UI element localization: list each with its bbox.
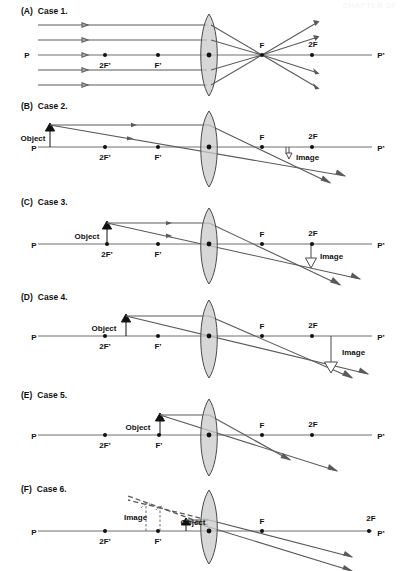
diverging-ray (262, 22, 318, 55)
image-arrow-head (286, 153, 292, 159)
label-P-left: P (31, 528, 37, 537)
label-P-right: P’ (377, 241, 385, 250)
point-2F (310, 433, 314, 437)
label-image: Image (124, 513, 148, 522)
label-2F-prime: 2F’ (99, 537, 111, 546)
converging-lens (201, 399, 218, 476)
lens-center-point (207, 529, 212, 534)
label-2F: 2F (308, 229, 317, 238)
ray-diagram-case-1: P 2F’ F’ F 2F P’ (0, 6, 402, 98)
ray-arrowhead (330, 277, 342, 286)
ray-arrowhead (131, 123, 137, 127)
label-2F-prime: 2F’ (101, 250, 113, 259)
point-F (260, 242, 264, 246)
label-F: F (260, 41, 265, 50)
point-2F-prime (103, 529, 107, 533)
refracted-ray (211, 55, 262, 70)
ray-arrowhead (166, 221, 172, 225)
diverging-ray (262, 55, 318, 88)
lens-center-point (207, 242, 212, 247)
label-2F: 2F (308, 321, 317, 330)
point-F (260, 529, 264, 533)
label-P-left: P (31, 144, 37, 153)
chief-ray (50, 125, 345, 176)
point-2F-prime (103, 53, 107, 57)
label-2F-prime: 2F’ (99, 153, 111, 162)
label-F: F (260, 230, 265, 239)
point-F (260, 53, 264, 57)
converging-lens (201, 490, 218, 564)
label-P-right: P’ (377, 144, 385, 153)
label-P-left: P (31, 333, 37, 342)
label-object: Object (21, 134, 46, 143)
label-2F-prime: 2F’ (99, 61, 111, 70)
label-P-right: P’ (377, 529, 385, 538)
label-object: Object (92, 324, 117, 333)
point-2F (310, 53, 314, 57)
label-F: F (260, 517, 265, 526)
label-2F: 2F (308, 420, 317, 429)
ray-diagram-case-6: Image Object P 2F’ F’ F 2F P’ (0, 484, 402, 571)
case-block-c: (C)Case 3. (0, 197, 402, 289)
object-arrow-head (121, 314, 130, 322)
ray-arrowhead (342, 370, 354, 379)
ray-diagram-case-4: Object P 2F’ F’ F 2F Image P’ (0, 292, 402, 388)
ray-arrowhead (321, 176, 332, 184)
point-2F (310, 334, 314, 338)
label-2F: 2F (308, 40, 317, 49)
point-F-prime (157, 433, 161, 437)
object-arrow-head (155, 413, 164, 421)
refracted-ray (211, 55, 262, 85)
parallel-ray-refracted (209, 415, 290, 460)
figure-page: CHAPTER 24 (A)Case 1. (0, 0, 402, 571)
label-P-right: P’ (377, 51, 385, 60)
point-F (260, 334, 264, 338)
label-2F: 2F (308, 132, 317, 141)
lens-center-point (207, 433, 212, 438)
ray-arrowhead (328, 464, 339, 472)
object-arrow-head (45, 123, 54, 131)
label-object: Object (126, 423, 151, 432)
label-P-left: P (31, 241, 37, 250)
ray-diagram-case-3: Object P 2F’ F’ F 2F Image P’ (0, 197, 402, 289)
lens-center-point (207, 334, 212, 339)
ray-arrowhead (351, 273, 362, 280)
ray-arrowhead (313, 20, 320, 26)
point-F-prime (156, 53, 160, 57)
case-block-a: (A)Case 1. (0, 6, 402, 98)
image-arrow-head (306, 258, 317, 268)
point-2F-prime (103, 334, 107, 338)
label-2F: 2F (366, 514, 375, 523)
refracted-ray (211, 25, 262, 55)
point-F-prime (156, 145, 160, 149)
label-F: F (260, 133, 265, 142)
point-2F-prime (105, 242, 109, 246)
refracted-ray (211, 40, 262, 55)
chief-ray (107, 223, 360, 279)
label-object: Object (181, 518, 206, 527)
label-P-left: P (24, 51, 30, 60)
label-P-right: P’ (377, 432, 385, 441)
converging-lens (201, 300, 218, 378)
label-F-prime: F’ (154, 537, 161, 546)
label-image: Image (296, 153, 320, 162)
ray-arrowhead (127, 136, 134, 140)
label-P-left: P (31, 432, 37, 441)
label-F-prime: F’ (154, 153, 161, 162)
label-2F-prime: 2F’ (99, 441, 111, 450)
point-2F-prime (103, 145, 107, 149)
label-F-prime: F’ (154, 61, 161, 70)
case-block-d: (D)Case 4. Object (0, 292, 402, 388)
point-2F-prime (103, 433, 107, 437)
case-block-f: (F)Case 6. (0, 484, 402, 571)
label-2F-prime: 2F’ (99, 342, 111, 351)
lens-center-point (207, 145, 212, 150)
label-image: Image (342, 348, 366, 357)
case-block-b: (B)Case 2. (0, 101, 402, 193)
point-F-prime (156, 242, 160, 246)
case-block-e: (E)Case 5. Object P 2F’ F’ (0, 390, 402, 480)
object-arrow-head (102, 221, 111, 229)
label-F-prime: F’ (155, 441, 162, 450)
point-F (260, 433, 264, 437)
label-F: F (260, 322, 265, 331)
